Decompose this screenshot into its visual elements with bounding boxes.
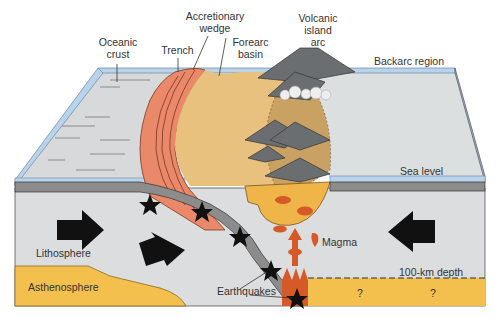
label-sea-level: Sea level bbox=[400, 165, 443, 177]
backarc-plate bbox=[330, 182, 485, 191]
label-text: Forearc bbox=[228, 36, 273, 48]
label-text: arc bbox=[293, 36, 343, 48]
label-magma: Magma bbox=[322, 236, 357, 248]
magma-blob bbox=[273, 226, 287, 233]
label-text: basin bbox=[228, 48, 273, 60]
label-text: Accretionary bbox=[180, 10, 250, 22]
magma-blob bbox=[288, 249, 302, 256]
magma-blob bbox=[275, 196, 291, 204]
label-earthquakes: Earthquakes bbox=[217, 285, 276, 297]
label-text: crust bbox=[93, 48, 143, 60]
label-text: Oceanic bbox=[93, 36, 143, 48]
label-forearc-basin: Forearc basin bbox=[228, 36, 273, 60]
label-text: Volcanic bbox=[293, 12, 343, 24]
label-unknown-2: ? bbox=[430, 287, 436, 299]
label-accretionary-wedge: Accretionary wedge bbox=[180, 10, 250, 34]
label-trench: Trench bbox=[155, 44, 200, 56]
label-backarc-region: Backarc region bbox=[374, 55, 444, 67]
label-text: island bbox=[293, 24, 343, 36]
magma-blob bbox=[297, 207, 313, 216]
label-100km-depth: 100-km depth bbox=[399, 266, 463, 278]
label-text: wedge bbox=[180, 22, 250, 34]
label-asthenosphere: Asthenosphere bbox=[28, 281, 99, 293]
label-oceanic-crust: Oceanic crust bbox=[93, 36, 143, 60]
asthenosphere-right bbox=[308, 278, 485, 306]
label-lithosphere: Lithosphere bbox=[36, 247, 91, 259]
label-unknown-1: ? bbox=[357, 287, 363, 299]
label-volcanic-island-arc: Volcanic island arc bbox=[293, 12, 343, 48]
